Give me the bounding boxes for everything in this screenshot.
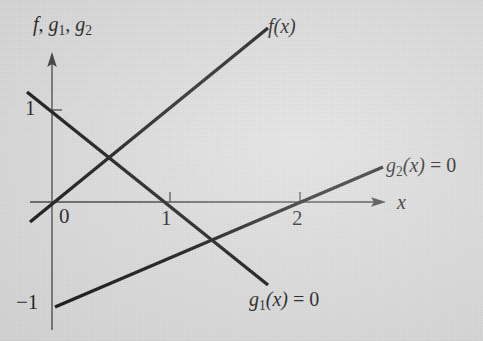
- curve-label-g1: g1(x) = 0: [249, 289, 319, 312]
- curve-label-g1-subscript: 1: [259, 298, 266, 313]
- x-tick-label-1: 1: [161, 208, 172, 229]
- y-axis-label: f, g1, g2: [33, 14, 92, 37]
- axis-arrowheads: [47, 52, 386, 207]
- y-tick-label-neg1: −1: [16, 292, 38, 313]
- curve-label-g1-arg: (x): [266, 288, 288, 310]
- curve-label-f: f(x): [268, 16, 296, 36]
- curve-label-g2-arg: (x): [403, 154, 425, 176]
- function-curves: [27, 28, 383, 307]
- y-axis-label-sep-1: ,: [39, 13, 49, 35]
- curve-label-g2: g2(x) = 0: [386, 155, 456, 178]
- curve-label-g1-rel: = 0: [288, 288, 319, 310]
- figure-canvas: f, g1, g2 x f(x) g2(x) = 0 g1(x) = 0 1 −…: [0, 0, 483, 341]
- curve-label-g2-fn: g: [386, 154, 396, 176]
- x-tick-label-2: 2: [292, 208, 303, 229]
- y-axis-label-sep-2: ,: [65, 13, 75, 35]
- y-tick-label-1: 1: [25, 98, 36, 119]
- x-tick-label-0: 0: [59, 206, 70, 227]
- axis-lines: [30, 57, 381, 330]
- curve-label-g2-subscript: 2: [396, 164, 403, 179]
- y-axis-label-g2-subscript: 2: [85, 23, 92, 38]
- y-axis-label-g1: g: [49, 13, 59, 35]
- curve-label-f-arg: (x): [274, 15, 296, 37]
- curve-label-g1-fn: g: [249, 288, 259, 310]
- x-axis-label: x: [397, 192, 406, 212]
- curve-g1: [27, 92, 268, 285]
- tick-marks: [52, 110, 300, 202]
- y-axis-label-g2: g: [75, 13, 85, 35]
- curve-label-g2-rel: = 0: [425, 154, 456, 176]
- curve-g2: [55, 167, 383, 307]
